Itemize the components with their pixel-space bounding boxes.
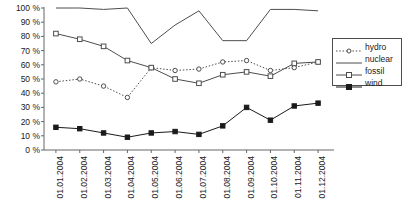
x-tick-label: 01.12.2004 bbox=[318, 156, 327, 199]
legend-label-fossil: fossil bbox=[362, 66, 384, 76]
legend-label-wind: wind bbox=[362, 78, 382, 88]
x-tick-label: 01.06.2004 bbox=[175, 156, 184, 199]
x-tick-label: 01.09.2004 bbox=[246, 156, 255, 199]
legend-key-wind bbox=[336, 78, 362, 88]
legend-item-fossil: fossil bbox=[336, 65, 398, 76]
chart-legend: hydro nuclear fossil bbox=[332, 38, 402, 86]
x-tick-label: 01.04.2004 bbox=[127, 156, 136, 199]
x-tick-label: 01.10.2004 bbox=[270, 156, 279, 199]
x-tick-label: 01.07.2004 bbox=[199, 156, 208, 199]
legend-key-fossil bbox=[336, 66, 362, 76]
x-tick-label: 01.05.2004 bbox=[151, 156, 160, 199]
legend-item-wind: wind bbox=[336, 77, 398, 88]
legend-item-hydro: hydro bbox=[336, 41, 398, 52]
x-tick-label: 01.08.2004 bbox=[223, 156, 232, 199]
x-tick-label: 01.11.2004 bbox=[294, 156, 303, 198]
legend-item-nuclear: nuclear bbox=[336, 53, 398, 64]
x-axis: 01.01.200401.02.200401.03.200401.04.2004… bbox=[0, 0, 405, 224]
x-tick-label: 01.03.2004 bbox=[103, 156, 112, 199]
x-tick-label: 01.02.2004 bbox=[80, 156, 89, 199]
legend-key-hydro bbox=[336, 42, 362, 52]
legend-key-nuclear bbox=[336, 54, 362, 64]
legend-label-hydro: hydro bbox=[362, 42, 386, 52]
chart-container: 0 %10 %20 %30 %40 %50 %60 %70 %80 %90 %1… bbox=[0, 0, 405, 224]
legend-label-nuclear: nuclear bbox=[362, 54, 393, 64]
x-tick-label: 01.01.2004 bbox=[56, 156, 65, 199]
